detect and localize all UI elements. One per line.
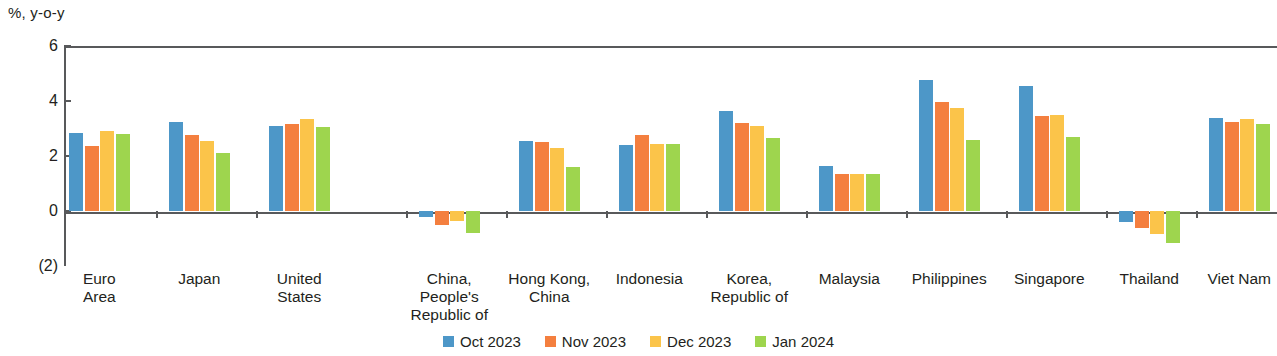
bar-group-bars (519, 46, 583, 266)
legend-label: Nov 2023 (562, 334, 626, 349)
y-axis-tick-label: 6 (14, 38, 58, 54)
bar[interactable] (450, 211, 464, 221)
bar-group (419, 46, 483, 266)
bar[interactable] (750, 126, 764, 211)
bar[interactable] (819, 166, 833, 211)
bar[interactable] (966, 140, 980, 212)
bar[interactable] (666, 144, 680, 211)
legend-label: Dec 2023 (667, 334, 731, 349)
bar[interactable] (1119, 211, 1133, 222)
bar-group-bars (419, 46, 483, 266)
bar[interactable] (919, 80, 933, 211)
bar[interactable] (866, 174, 880, 211)
legend-item[interactable]: Nov 2023 (545, 334, 626, 349)
bar[interactable] (766, 138, 780, 211)
legend-item[interactable]: Oct 2023 (443, 334, 521, 349)
x-axis-tick-mark (406, 211, 408, 218)
y-axis-tick-label: 4 (14, 93, 58, 109)
bar[interactable] (950, 108, 964, 211)
x-axis-tick-mark (1006, 211, 1008, 218)
bar-group (69, 46, 133, 266)
x-axis-tick-mark (506, 211, 508, 218)
bar-group-bars (1019, 46, 1083, 266)
chart-legend: Oct 2023Nov 2023Dec 2023Jan 2024 (0, 334, 1277, 349)
bar-group-bars (69, 46, 133, 266)
x-axis-tick-mark (156, 211, 158, 218)
bar-group-bars (619, 46, 683, 266)
bar-group-bars (169, 46, 233, 266)
bar-group (819, 46, 883, 266)
x-axis-category-labels: Euro AreaJapanUnited StatesChina, People… (64, 270, 1277, 332)
bar[interactable] (1019, 86, 1033, 211)
bar[interactable] (935, 102, 949, 211)
bar[interactable] (650, 144, 664, 211)
bar[interactable] (435, 211, 449, 225)
legend-color-swatch (545, 336, 556, 347)
bar-group (519, 46, 583, 266)
legend-color-swatch (650, 336, 661, 347)
bar[interactable] (419, 211, 433, 217)
bar[interactable] (1240, 119, 1254, 211)
bar[interactable] (1050, 115, 1064, 211)
bar[interactable] (835, 174, 849, 211)
bar[interactable] (850, 174, 864, 211)
bar[interactable] (1066, 137, 1080, 211)
legend-item[interactable]: Dec 2023 (650, 334, 731, 349)
bar[interactable] (169, 122, 183, 211)
bar-group (919, 46, 983, 266)
bar[interactable] (735, 123, 749, 211)
x-axis-tick-mark (256, 211, 258, 218)
bar[interactable] (316, 127, 330, 211)
y-axis: 6420(2) (0, 46, 58, 266)
x-axis-tick-mark (606, 211, 608, 218)
grouped-bar-chart: %, y-o-y 6420(2) Euro AreaJapanUnited St… (0, 0, 1277, 356)
bar[interactable] (619, 145, 633, 211)
bar-group-bars (269, 46, 333, 266)
x-axis-tick-mark (1196, 211, 1198, 218)
y-axis-tick-label: 2 (14, 148, 58, 164)
bar[interactable] (1166, 211, 1180, 243)
bar-group-bars (1209, 46, 1273, 266)
bar[interactable] (216, 153, 230, 211)
bar[interactable] (1225, 122, 1239, 211)
bar[interactable] (466, 211, 480, 233)
bar-group-bars (719, 46, 783, 266)
bar-group (1209, 46, 1273, 266)
bar[interactable] (200, 141, 214, 211)
bar[interactable] (69, 133, 83, 211)
bar[interactable] (1035, 116, 1049, 211)
bar-group (1119, 46, 1183, 266)
bar[interactable] (550, 148, 564, 211)
bar[interactable] (269, 126, 283, 211)
bar-group (619, 46, 683, 266)
y-axis-tick-label: 0 (14, 203, 58, 219)
legend-label: Jan 2024 (772, 334, 834, 349)
bar-group (169, 46, 233, 266)
bar[interactable] (566, 167, 580, 211)
x-axis-tick-mark (906, 211, 908, 218)
bar[interactable] (185, 135, 199, 211)
bar[interactable] (100, 131, 114, 211)
bar[interactable] (116, 134, 130, 211)
x-axis-tick-mark (1106, 211, 1108, 218)
x-axis-tick-mark (806, 211, 808, 218)
bar-group-bars (819, 46, 883, 266)
bar[interactable] (535, 142, 549, 211)
bar[interactable] (719, 111, 733, 211)
bar[interactable] (635, 135, 649, 211)
bar[interactable] (519, 141, 533, 211)
legend-color-swatch (755, 336, 766, 347)
legend-color-swatch (443, 336, 454, 347)
x-axis-category-label: Viet Nam (1169, 270, 1277, 288)
legend-item[interactable]: Jan 2024 (755, 334, 834, 349)
x-axis-category-label: United States (229, 270, 369, 306)
bar[interactable] (285, 124, 299, 211)
bar[interactable] (1135, 211, 1149, 228)
bar-group-bars (1119, 46, 1183, 266)
bar[interactable] (1150, 211, 1164, 234)
x-axis-tick-mark (706, 211, 708, 218)
bar[interactable] (1256, 124, 1270, 211)
bar[interactable] (85, 146, 99, 211)
bar[interactable] (300, 119, 314, 211)
bar[interactable] (1209, 118, 1223, 212)
